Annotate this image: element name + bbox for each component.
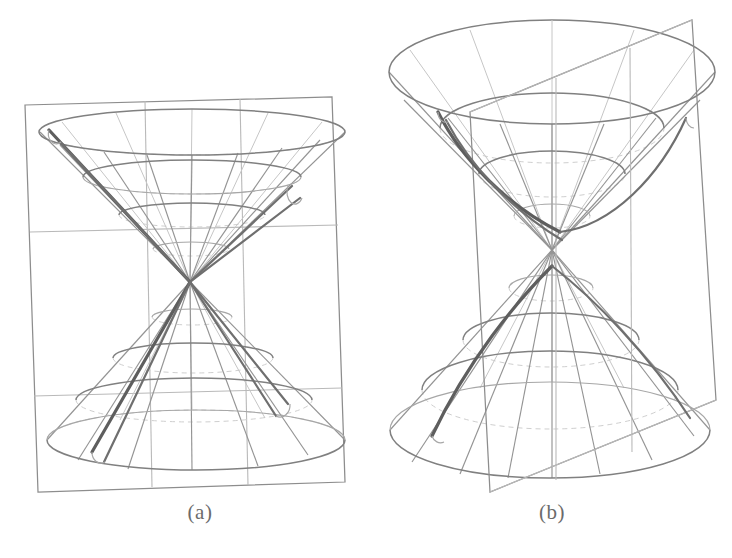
figure-b-latitude-rings: [422, 93, 678, 390]
figure-page: (a) (b): [0, 0, 732, 558]
figure-a-caption: (a): [140, 500, 260, 525]
figure-b-drawing: [366, 0, 732, 500]
figure-b-upper-generators: [389, 20, 715, 250]
figure-a-lower-generators: [47, 282, 345, 470]
figure-b-cutting-plane: [470, 20, 716, 492]
figure-b-caption: (b): [492, 500, 612, 525]
figure-b-intersection-curve: [432, 112, 690, 436]
figure-b-lower-generators: [390, 250, 710, 478]
figure-a-drawing: [0, 0, 366, 500]
